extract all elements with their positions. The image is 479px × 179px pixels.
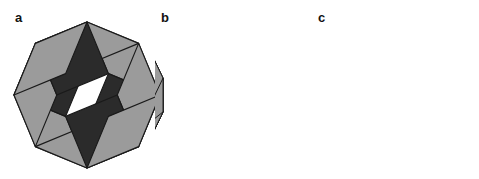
rhombus-tile — [155, 112, 163, 164]
tiling-group — [155, 19, 163, 171]
rhombic-tiling-octagon — [0, 0, 180, 179]
panel-b: b — [155, 0, 315, 179]
tiling-group — [14, 22, 160, 168]
panel-a: a — [0, 0, 155, 179]
rhombic-tiling-14gon — [155, 0, 335, 179]
rhombic-tiling-20gon — [315, 0, 479, 179]
panel-c: c — [315, 0, 479, 179]
figure-root: a b c — [0, 0, 479, 179]
